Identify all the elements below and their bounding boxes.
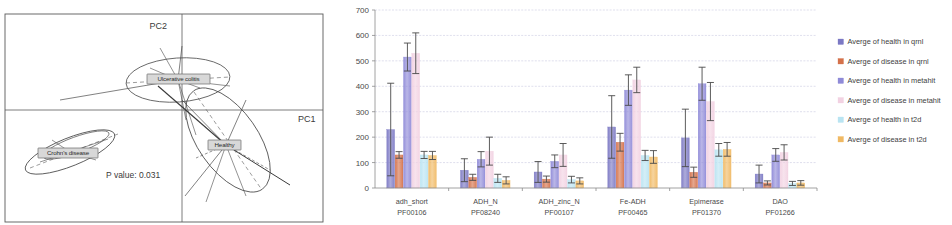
legend-label: Averge of health in t2d <box>848 115 922 124</box>
bar-chart-x-axis: adh_shortPF00106ADH_NPF08240ADH_zinc_NPF… <box>396 188 817 217</box>
y-axis-tick-label: 400 <box>356 82 370 91</box>
bar-chart-legend: Averge of health in qrnlAverge of diseas… <box>838 37 941 144</box>
pca-label-healthy: Healthy <box>215 141 236 148</box>
y-axis-tick-label: 0 <box>365 184 370 193</box>
pca-axis-label-pc2: PC2 <box>149 21 167 31</box>
x-axis-category-label: Fe-ADH <box>620 197 646 206</box>
bar <box>633 80 641 188</box>
pca-plot-svg: PC2 PC1 Ulcerative colitis <box>0 0 330 225</box>
bar <box>429 155 437 188</box>
bar-group <box>681 84 731 188</box>
pca-plot-panel: PC2 PC1 Ulcerative colitis <box>0 0 330 225</box>
x-axis-category-label: DAO <box>772 197 788 206</box>
x-axis-accession-label: PF00107 <box>545 208 574 217</box>
y-axis-tick-label: 600 <box>356 31 370 40</box>
x-axis-category-label: ADH_zinc_N <box>539 197 580 206</box>
bar-group <box>755 152 805 188</box>
pca-axis-label-pc1: PC1 <box>298 114 316 124</box>
bar-chart-bars <box>387 53 805 188</box>
bar <box>395 155 403 188</box>
bar-group <box>460 151 510 188</box>
x-axis-accession-label: PF00106 <box>397 208 426 217</box>
legend-swatch <box>838 98 844 104</box>
pca-label-ulcerative-colitis: Ulcerative colitis <box>158 75 200 82</box>
bar-chart-svg: 0100200300400500600700 adh_shortPF00106A… <box>330 0 952 225</box>
figure-root: PC2 PC1 Ulcerative colitis <box>0 0 952 225</box>
legend-swatch <box>838 78 844 84</box>
legend-swatch <box>838 137 844 143</box>
x-axis-category-label: Epimerase <box>689 197 723 206</box>
x-axis-category-label: ADH_N <box>473 197 497 206</box>
bar-chart-y-axis: 0100200300400500600700 <box>356 6 375 193</box>
legend-swatch <box>838 59 844 65</box>
legend-swatch <box>838 39 844 45</box>
x-axis-category-label: adh_short <box>396 197 428 206</box>
bar-chart-panel: 0100200300400500600700 adh_shortPF00106A… <box>330 0 952 225</box>
pca-label-crohns-disease: Crohn's disease <box>47 149 90 156</box>
pca-pvalue-annotation: P value: 0.031 <box>106 170 160 180</box>
legend-label: Averge of disease in qrnl <box>848 57 930 66</box>
x-axis-accession-label: PF01370 <box>692 208 721 217</box>
x-axis-accession-label: PF01266 <box>766 208 795 217</box>
bar-group <box>534 155 584 188</box>
x-axis-accession-label: PF00465 <box>618 208 647 217</box>
legend-label: Averge of disease in metahit <box>848 96 941 105</box>
pca-frame <box>5 14 323 222</box>
y-axis-tick-label: 300 <box>356 108 370 117</box>
legend-label: Averge of health in metahit <box>848 76 936 85</box>
bar-chart-error-bars <box>387 33 804 186</box>
legend-label: Averge of disease in t2d <box>848 135 927 144</box>
legend-label: Averge of health in qrnl <box>848 37 924 46</box>
legend-swatch <box>838 117 844 123</box>
bar <box>403 57 411 188</box>
x-axis-accession-label: PF08240 <box>471 208 500 217</box>
y-axis-tick-label: 700 <box>356 6 370 15</box>
bar-chart-gridlines <box>375 10 817 163</box>
bar-chart-axes <box>375 10 817 188</box>
bar-group <box>608 80 658 188</box>
bar <box>420 155 428 188</box>
bar-group <box>387 53 437 188</box>
y-axis-tick-label: 200 <box>356 133 370 142</box>
y-axis-tick-label: 100 <box>356 159 370 168</box>
y-axis-tick-label: 500 <box>356 57 370 66</box>
